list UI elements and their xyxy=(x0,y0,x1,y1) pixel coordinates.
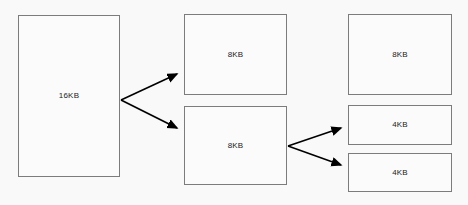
block-8kb-right: 8KB xyxy=(348,14,452,95)
arrow-8kb-to-4kb-top xyxy=(288,128,341,146)
block-8kb-top-label: 8KB xyxy=(228,51,244,59)
block-8kb-right-label: 8KB xyxy=(392,51,408,59)
block-4kb-bottom-label: 4KB xyxy=(392,169,408,177)
block-4kb-bottom: 4KB xyxy=(348,153,452,192)
arrow-16kb-to-8kb-bottom xyxy=(121,100,177,128)
memory-split-diagram: 16KB 8KB 8KB 8KB 4KB 4KB xyxy=(0,0,468,205)
block-8kb-bottom-label: 8KB xyxy=(228,142,244,150)
block-16kb-label: 16KB xyxy=(59,92,79,100)
block-4kb-top-label: 4KB xyxy=(392,121,408,129)
block-16kb: 16KB xyxy=(18,15,120,177)
arrow-8kb-to-4kb-bottom xyxy=(288,146,341,165)
arrow-16kb-to-8kb-top xyxy=(121,74,177,100)
block-4kb-top: 4KB xyxy=(348,105,452,145)
block-8kb-bottom: 8KB xyxy=(184,106,287,185)
block-8kb-top: 8KB xyxy=(184,14,287,95)
